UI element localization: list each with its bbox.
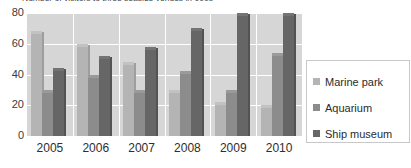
x-axis-labels: 200520062007200820092010	[27, 140, 302, 160]
bar-2005-ship-museum	[53, 68, 64, 136]
bar-2005-aquarium	[42, 90, 53, 136]
bar-2008-marine-park	[169, 90, 180, 136]
bar-face	[88, 78, 99, 137]
bar-2010-marine-park	[261, 105, 272, 136]
bar-group-2006	[73, 13, 119, 136]
bar-chart-screenshot: Number of visitors to three seaside venu…	[0, 0, 411, 168]
x-axis-tick-2005: 2005	[27, 140, 73, 156]
bar-group-2008	[165, 13, 211, 136]
bar-face	[237, 16, 248, 136]
bar-face	[215, 105, 226, 136]
bar-group-2005	[27, 13, 73, 136]
bar-group-2007	[119, 13, 165, 136]
bar-face	[77, 47, 88, 136]
chart-title: Number of visitors to three seaside venu…	[22, 0, 322, 3]
bar-face	[42, 93, 53, 136]
x-axis-tick-2006: 2006	[73, 140, 119, 156]
bar-group-2009	[210, 13, 256, 136]
bar-side	[64, 69, 66, 136]
bar-side	[156, 48, 158, 136]
x-axis-tick-2009: 2009	[210, 140, 256, 156]
legend-swatch-icon	[313, 130, 320, 137]
bar-2007-marine-park	[123, 62, 134, 136]
chart-legend: Marine parkAquariumShip museum	[306, 60, 410, 143]
bar-2009-ship-museum	[237, 13, 248, 136]
legend-item-ship-museum[interactable]: Ship museum	[313, 124, 392, 136]
bar-2006-aquarium	[88, 75, 99, 137]
plot-area	[27, 13, 302, 136]
legend-item-aquarium[interactable]: Aquarium	[313, 98, 372, 110]
bar-2007-aquarium	[134, 90, 145, 136]
bar-2008-aquarium	[180, 71, 191, 136]
bar-face	[31, 34, 42, 136]
legend-swatch-icon	[313, 104, 320, 111]
bar-2008-ship-museum	[191, 28, 202, 136]
bar-face	[283, 16, 294, 136]
bar-face	[272, 56, 283, 136]
bar-2005-marine-park	[31, 31, 42, 136]
bar-face	[53, 71, 64, 136]
bar-2009-aquarium	[226, 90, 237, 136]
bar-side	[202, 29, 204, 136]
bar-face	[99, 59, 110, 136]
legend-label: Marine park	[325, 76, 383, 88]
bar-face	[134, 93, 145, 136]
legend-label: Aquarium	[325, 102, 372, 114]
bar-face	[169, 93, 180, 136]
bar-2009-marine-park	[215, 102, 226, 136]
bar-2010-ship-museum	[283, 13, 294, 136]
bar-2010-aquarium	[272, 53, 283, 136]
y-axis-tick-20: 20	[0, 99, 24, 110]
y-axis-tick-80: 80	[0, 7, 24, 18]
bar-face	[226, 93, 237, 136]
bar-face	[191, 31, 202, 136]
bar-2006-marine-park	[77, 44, 88, 136]
bar-face	[261, 108, 272, 136]
y-axis-labels: 806040200	[0, 0, 24, 140]
legend-label: Ship museum	[325, 128, 392, 140]
bar-2007-ship-museum	[145, 47, 156, 136]
bar-side	[248, 14, 250, 136]
bar-side	[294, 14, 296, 136]
legend-item-marine-park[interactable]: Marine park	[313, 72, 383, 84]
bar-face	[145, 50, 156, 136]
y-axis-tick-40: 40	[0, 69, 24, 80]
x-axis-tick-2007: 2007	[119, 140, 165, 156]
bar-side	[110, 57, 112, 136]
bar-2006-ship-museum	[99, 56, 110, 136]
bar-face	[123, 65, 134, 136]
y-axis-tick-0: 0	[0, 130, 24, 141]
bar-group-2010	[256, 13, 302, 136]
y-axis-tick-60: 60	[0, 38, 24, 49]
bar-face	[180, 74, 191, 136]
x-axis-tick-2010: 2010	[256, 140, 302, 156]
legend-swatch-icon	[313, 78, 320, 85]
x-axis-tick-2008: 2008	[165, 140, 211, 156]
